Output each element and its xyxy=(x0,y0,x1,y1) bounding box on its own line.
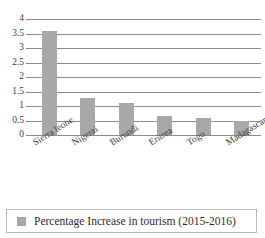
chart-title xyxy=(0,0,265,4)
legend-label: Percentage Increase in tourism (2015-201… xyxy=(34,215,236,227)
y-axis-tick-label: 0.5 xyxy=(0,116,24,126)
y-axis-tick-mark xyxy=(26,34,30,35)
y-axis-tick-mark xyxy=(26,48,30,49)
y-axis-tick-mark xyxy=(26,92,30,93)
gridline xyxy=(30,34,261,35)
y-axis-tick-mark xyxy=(26,121,30,122)
gridline xyxy=(30,19,261,20)
y-axis-tick-mark xyxy=(26,106,30,107)
bar xyxy=(42,31,57,135)
chart-legend: Percentage Increase in tourism (2015-201… xyxy=(6,209,257,233)
y-axis-tick-labels: 00.511.522.533.54 xyxy=(0,19,24,135)
y-axis-tick-label: 4 xyxy=(0,14,24,24)
legend-color-swatch xyxy=(17,217,26,226)
y-axis-tick-label: 3 xyxy=(0,43,24,53)
gridline xyxy=(30,48,261,49)
y-axis-tick-mark xyxy=(26,19,30,20)
y-axis-tick-label: 1.5 xyxy=(0,87,24,97)
gridline xyxy=(30,92,261,93)
y-axis-tick-label: 1 xyxy=(0,101,24,111)
gridline xyxy=(30,63,261,64)
y-axis-tick-label: 3.5 xyxy=(0,29,24,39)
y-axis-tick-label: 2.5 xyxy=(0,58,24,68)
gridline xyxy=(30,77,261,78)
bar-chart-figure: 00.511.522.533.54 Sierra leoneNigeraiBur… xyxy=(0,0,265,238)
y-axis-tick-mark xyxy=(26,63,30,64)
gridline xyxy=(30,106,261,107)
y-axis-tick-label: 2 xyxy=(0,72,24,82)
y-axis-tick-mark xyxy=(26,77,30,78)
x-axis-category-labels: Sierra leoneNigeraiBurundiEritreaTogoMad… xyxy=(0,136,265,198)
